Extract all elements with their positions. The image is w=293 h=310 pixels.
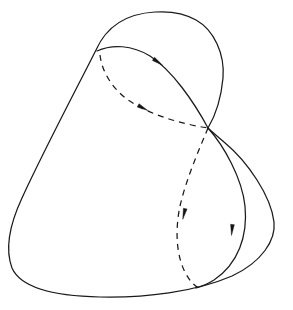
curve-diagram [0,0,293,310]
figure-background [0,0,293,310]
figure-canvas [0,0,293,310]
